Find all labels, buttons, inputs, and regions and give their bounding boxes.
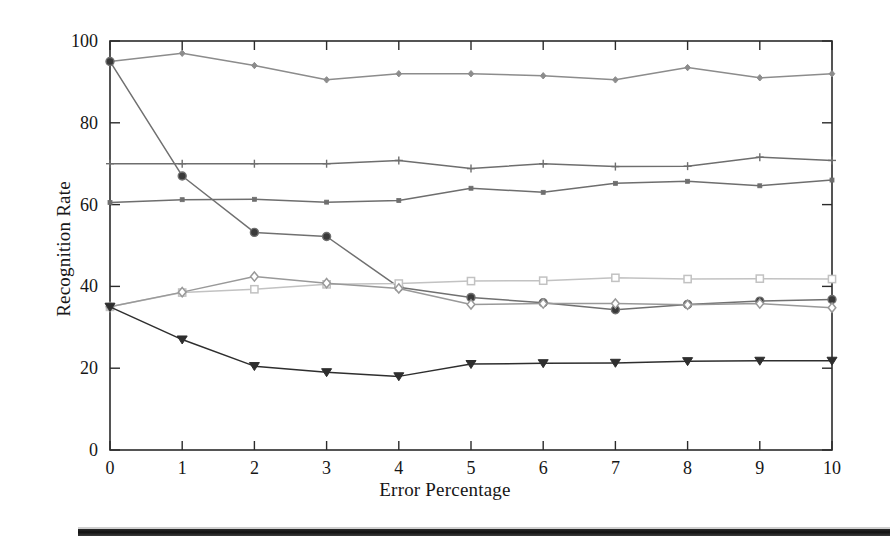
y-tick-label: 60 — [80, 195, 98, 215]
data-point-marker-square-open — [540, 277, 547, 284]
page-edge-shadow — [78, 529, 890, 536]
x-tick-label: 0 — [106, 458, 115, 478]
data-point-marker-dot — [830, 178, 834, 182]
y-tick-labels: 020406080100 — [71, 31, 98, 460]
data-point-marker-plus — [828, 156, 836, 164]
x-axis-label: Error Percentage — [0, 479, 890, 501]
data-point-marker-dot — [397, 199, 401, 203]
x-tick-label: 3 — [322, 458, 331, 478]
data-point-marker-dot — [469, 186, 473, 190]
y-tick-label: 80 — [80, 113, 98, 133]
data-point-marker-diamond-open — [251, 272, 259, 281]
data-point-marker-dot — [325, 200, 329, 204]
x-tick-label: 8 — [683, 458, 692, 478]
data-point-marker-plus — [106, 160, 114, 168]
data-point-marker-diamond-small — [324, 77, 330, 83]
data-point-marker-diamond-small — [829, 71, 835, 77]
y-tick-label: 100 — [71, 31, 98, 51]
y-tick-label: 40 — [80, 276, 98, 296]
data-point-marker-circle-filled — [178, 172, 186, 180]
chart-figure: 012345678910 020406080100 Recognition Ra… — [0, 0, 890, 545]
x-tick-label: 7 — [611, 458, 620, 478]
data-point-marker-plus — [684, 162, 692, 170]
data-point-marker-square-open — [251, 286, 258, 293]
data-point-marker-diamond-small — [540, 73, 546, 79]
series-line — [110, 61, 832, 309]
y-axis-ticks — [110, 41, 832, 450]
data-point-marker-square-open — [612, 274, 619, 281]
data-point-marker-diamond-open — [828, 303, 836, 312]
data-point-marker-diamond-small — [757, 75, 763, 81]
data-point-marker-triangle-down — [177, 336, 187, 344]
x-tick-label: 1 — [178, 458, 187, 478]
x-axis-ticks — [110, 41, 832, 450]
data-point-marker-square-open — [467, 277, 474, 284]
data-point-marker-plus — [467, 165, 475, 173]
data-point-marker-square-open — [828, 275, 835, 282]
plot-frame — [110, 41, 832, 450]
data-point-marker-square-open — [684, 275, 691, 282]
series-series-4 — [106, 57, 836, 313]
data-point-marker-dot — [541, 190, 545, 194]
x-tick-label: 6 — [539, 458, 548, 478]
data-point-marker-circle-filled — [250, 228, 258, 236]
data-point-marker-dot — [613, 181, 617, 185]
x-tick-label: 9 — [755, 458, 764, 478]
y-tick-label: 0 — [89, 440, 98, 460]
data-point-marker-square-open — [756, 275, 763, 282]
series-series-3 — [108, 178, 834, 204]
y-axis-label: Recognition Rate — [53, 149, 75, 349]
data-point-marker-plus — [178, 160, 186, 168]
data-point-marker-dot — [180, 198, 184, 202]
data-point-marker-circle-filled — [106, 57, 114, 65]
data-point-marker-dot — [758, 184, 762, 188]
x-tick-labels: 012345678910 — [106, 458, 842, 478]
data-point-marker-dot — [252, 197, 256, 201]
series-series-2 — [106, 153, 836, 172]
x-tick-label: 10 — [823, 458, 841, 478]
x-tick-label: 4 — [394, 458, 403, 478]
data-point-marker-diamond-small — [468, 71, 474, 77]
data-point-marker-plus — [323, 160, 331, 168]
data-point-marker-diamond-small — [613, 77, 619, 83]
data-point-marker-plus — [395, 156, 403, 164]
data-point-marker-dot — [686, 179, 690, 183]
data-point-marker-plus — [756, 153, 764, 161]
data-point-marker-dot — [108, 201, 112, 205]
data-series-group — [105, 50, 837, 381]
series-series-7 — [105, 303, 837, 381]
data-point-marker-diamond-small — [396, 71, 402, 77]
series-series-1 — [107, 50, 835, 83]
data-point-marker-circle-filled — [323, 233, 331, 241]
data-point-marker-plus — [250, 160, 258, 168]
series-line — [110, 180, 832, 203]
x-tick-label: 5 — [467, 458, 476, 478]
data-point-marker-diamond-small — [179, 50, 185, 56]
data-point-marker-plus — [611, 163, 619, 171]
data-point-marker-diamond-small — [252, 62, 258, 68]
data-point-marker-diamond-small — [685, 64, 691, 70]
line-chart: 012345678910 020406080100 — [0, 0, 890, 545]
y-tick-label: 20 — [80, 358, 98, 378]
x-tick-label: 2 — [250, 458, 259, 478]
data-point-marker-plus — [539, 160, 547, 168]
